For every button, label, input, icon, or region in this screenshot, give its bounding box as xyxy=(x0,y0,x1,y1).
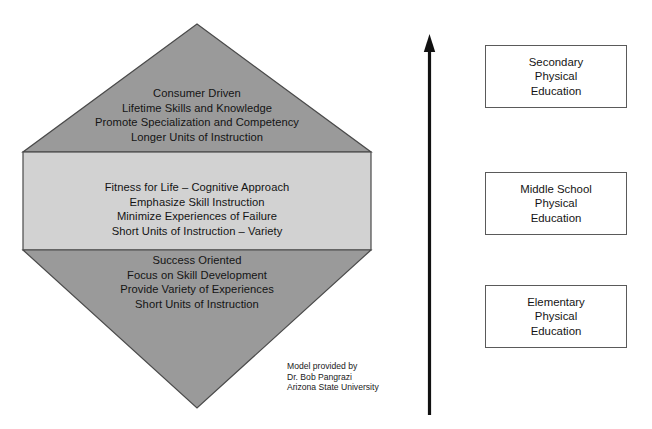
lower-tier-line-4: Short Units of Instruction xyxy=(23,297,371,312)
diamond-model: Consumer Driven Lifetime Skills and Know… xyxy=(0,0,400,429)
level-box-elementary-text: Elementary Physical Education xyxy=(527,295,585,338)
level-middle-school-line-3: Education xyxy=(520,211,592,225)
lower-tier-line-2: Focus on Skill Development xyxy=(23,268,371,283)
upper-tier-line-1: Consumer Driven xyxy=(23,86,371,101)
level-box-middle-school-text: Middle School Physical Education xyxy=(520,182,592,225)
level-secondary-line-1: Secondary xyxy=(529,55,583,69)
attribution-line-3: Arizona State University xyxy=(287,382,379,393)
attribution-credit: Model provided by Dr. Bob Pangrazi Arizo… xyxy=(287,361,379,393)
level-elementary-line-2: Physical xyxy=(527,309,585,323)
level-box-secondary-text: Secondary Physical Education xyxy=(529,55,583,98)
upward-arrow-icon xyxy=(412,28,448,424)
level-box-secondary: Secondary Physical Education xyxy=(485,45,627,108)
progression-arrow xyxy=(412,28,448,424)
level-secondary-line-2: Physical xyxy=(529,69,583,83)
upper-tier-line-3: Promote Specialization and Competency xyxy=(23,115,371,130)
lower-tier-line-1: Success Oriented xyxy=(23,253,371,268)
lower-tier-text: Success Oriented Focus on Skill Developm… xyxy=(23,253,371,311)
upper-tier-text: Consumer Driven Lifetime Skills and Know… xyxy=(23,86,371,144)
lower-tier-line-3: Provide Variety of Experiences xyxy=(23,282,371,297)
middle-tier-line-2: Emphasize Skill Instruction xyxy=(23,195,371,210)
level-secondary-line-3: Education xyxy=(529,84,583,98)
upper-tier-line-4: Longer Units of Instruction xyxy=(23,130,371,145)
level-elementary-line-1: Elementary xyxy=(527,295,585,309)
level-box-middle-school: Middle School Physical Education xyxy=(485,172,627,235)
level-elementary-line-3: Education xyxy=(527,324,585,338)
upper-tier-line-2: Lifetime Skills and Knowledge xyxy=(23,101,371,116)
level-middle-school-line-1: Middle School xyxy=(520,182,592,196)
attribution-line-1: Model provided by xyxy=(287,361,379,372)
attribution-line-2: Dr. Bob Pangrazi xyxy=(287,372,379,383)
level-box-elementary: Elementary Physical Education xyxy=(485,285,627,348)
middle-tier-line-1: Fitness for Life – Cognitive Approach xyxy=(23,180,371,195)
middle-tier-line-4: Short Units of Instruction – Variety xyxy=(23,224,371,239)
middle-tier-text: Fitness for Life – Cognitive Approach Em… xyxy=(23,180,371,238)
level-middle-school-line-2: Physical xyxy=(520,196,592,210)
diagram-canvas: Consumer Driven Lifetime Skills and Know… xyxy=(0,0,652,429)
middle-tier-line-3: Minimize Experiences of Failure xyxy=(23,209,371,224)
